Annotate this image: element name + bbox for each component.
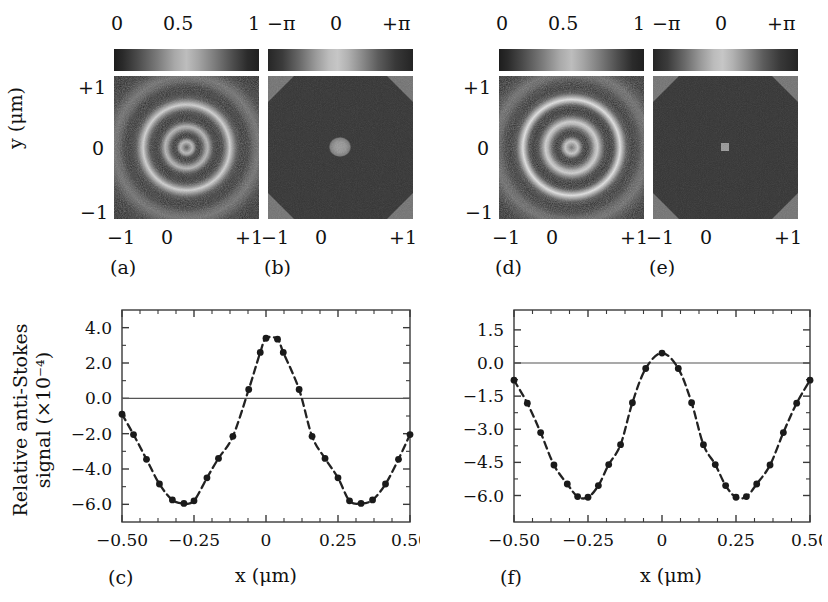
- panel-e-xtick-minus1: −1: [646, 228, 674, 247]
- panel-label-a: (a): [110, 258, 136, 277]
- x-tick-label: −0.50: [488, 530, 540, 550]
- panel-f-plot: −0.50−0.2500.250.501.50.0−1.5−3.0−4.5−6.…: [452, 300, 822, 550]
- panel-b-image: [268, 76, 413, 219]
- panel-label-c: (c): [108, 568, 133, 587]
- data-point: [335, 474, 342, 481]
- y-tick-label: 0.0: [85, 388, 112, 408]
- data-point: [215, 455, 222, 462]
- data-point: [564, 481, 571, 488]
- y-tick-label: 2.0: [85, 353, 112, 373]
- panel-c-y-axis-label-line1: Relative anti-Stokes: [9, 305, 32, 535]
- panel-d-xtick-zero: 0: [546, 228, 558, 247]
- data-point: [130, 431, 137, 438]
- data-point: [382, 481, 389, 488]
- data-point: [595, 482, 602, 489]
- y-tick-label: 0.0: [477, 353, 504, 373]
- data-point: [753, 481, 760, 488]
- data-point: [322, 455, 329, 462]
- data-point: [712, 461, 719, 468]
- panel-c-y-axis-label-line2: signal (×10⁻⁴): [32, 305, 55, 535]
- data-point: [280, 349, 287, 356]
- figure-root: 0 0.5 1: [0, 0, 828, 602]
- y-tick-label: −2.0: [71, 424, 112, 444]
- x-tick-label: −0.50: [96, 530, 148, 550]
- data-point: [369, 497, 376, 504]
- panel-d-colorbar-tick-1: 1: [633, 14, 645, 33]
- data-point: [700, 441, 707, 448]
- panel-a-ytick-minus1: −1: [80, 203, 108, 222]
- panel-d-ytick-zero: 0: [477, 139, 489, 158]
- panel-d-colorbar-tick-mid: 0.5: [548, 14, 578, 33]
- x-tick-label: 0: [261, 530, 272, 550]
- x-tick-label: 0.25: [319, 530, 357, 550]
- panel-b-colorbar: [268, 49, 413, 71]
- data-point: [780, 429, 787, 436]
- data-point: [605, 461, 612, 468]
- data-point: [274, 336, 281, 343]
- panel-a-xtick-plus1: +1: [235, 228, 263, 247]
- data-point: [659, 350, 666, 357]
- panel-b-xtick-minus1: −1: [261, 228, 289, 247]
- x-tick-label: 0.25: [717, 530, 755, 550]
- panel-a-y-axis-label: y (μm): [4, 78, 27, 158]
- data-point: [346, 497, 353, 504]
- x-tick-label: 0: [657, 530, 668, 550]
- data-point: [143, 456, 150, 463]
- panel-f-x-axis-label: x (μm): [640, 566, 702, 585]
- plot-c-svg: −0.50−0.2500.250.504.02.00.0−2.0−4.0−6.0: [60, 300, 420, 550]
- y-tick-label: −6.0: [463, 486, 504, 506]
- panel-a-xtick-minus1: −1: [107, 228, 135, 247]
- y-tick-label: −4.0: [71, 459, 112, 479]
- panel-e-colorbar-tick-max: +π: [767, 14, 795, 33]
- data-point: [688, 399, 695, 406]
- data-point: [395, 456, 402, 463]
- panel-d-image: [499, 76, 644, 219]
- data-point: [263, 335, 270, 342]
- panel-d-ytick-plus1: +1: [463, 78, 491, 97]
- data-point: [807, 377, 814, 384]
- panel-a-ytick-plus1: +1: [78, 78, 106, 97]
- panel-e-colorbar: [653, 49, 798, 71]
- y-tick-label: −1.5: [463, 386, 504, 406]
- data-point: [537, 429, 544, 436]
- data-point: [119, 411, 126, 418]
- panel-label-f: (f): [500, 568, 522, 587]
- data-point: [181, 500, 188, 507]
- data-point: [524, 400, 531, 407]
- data-point: [229, 433, 236, 440]
- panel-a-colorbar-tick-1: 1: [248, 14, 260, 33]
- panel-b-xtick-zero: 0: [315, 228, 327, 247]
- panel-c-plot: −0.50−0.2500.250.504.02.00.0−2.0−4.0−6.0: [60, 300, 420, 550]
- data-point: [511, 377, 518, 384]
- panel-d-xtick-minus1: −1: [492, 228, 520, 247]
- panel-e-xtick-plus1: +1: [774, 228, 802, 247]
- panel-a-ytick-zero: 0: [92, 139, 104, 158]
- panel-b-colorbar-tick-min: −π: [267, 14, 295, 33]
- y-tick-label: −3.0: [463, 419, 504, 439]
- data-point: [257, 349, 264, 356]
- panel-e-colorbar-tick-mid: 0: [715, 14, 727, 33]
- data-point: [767, 462, 774, 469]
- data-point: [191, 497, 198, 504]
- y-tick-label: −4.5: [463, 452, 504, 472]
- data-point: [793, 400, 800, 407]
- panel-label-b: (b): [264, 258, 291, 277]
- data-point: [204, 474, 211, 481]
- panel-c-x-axis-label: x (μm): [235, 566, 297, 585]
- panel-d-ytick-minus1: −1: [465, 203, 493, 222]
- data-point: [407, 431, 414, 438]
- data-point: [642, 365, 649, 372]
- panel-c-y-axis-label: Relative anti-Stokes signal (×10⁻⁴): [9, 305, 55, 535]
- x-tick-label: −0.25: [562, 530, 614, 550]
- panel-label-d: (d): [495, 258, 522, 277]
- data-point: [743, 493, 750, 500]
- data-point: [296, 386, 303, 393]
- series-line-0: [122, 337, 410, 504]
- panel-a-image: [114, 76, 259, 219]
- data-point: [617, 441, 624, 448]
- panel-b-colorbar-tick-mid: 0: [330, 14, 342, 33]
- panel-label-e: (e): [649, 258, 675, 277]
- y-tick-label: 4.0: [85, 318, 112, 338]
- panel-a-colorbar: [114, 49, 259, 71]
- data-point: [722, 482, 729, 489]
